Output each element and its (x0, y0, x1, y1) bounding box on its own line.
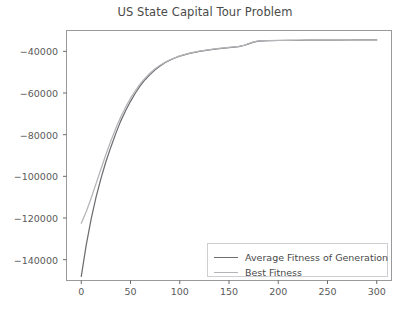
legend-color-swatch (214, 257, 238, 258)
legend-color-swatch (214, 272, 238, 273)
y-tick-label: −60000 (0, 88, 58, 99)
y-tick-label: −120000 (0, 213, 58, 224)
x-tick-label: 300 (357, 286, 397, 297)
legend-item[interactable]: Average Fitness of Generation (214, 251, 388, 264)
y-tick-label: −40000 (0, 46, 58, 57)
x-tick-label: 0 (61, 286, 101, 297)
x-tick-label: 150 (209, 286, 249, 297)
series-line (81, 40, 376, 223)
series-lines (81, 40, 376, 276)
y-tick-label: −140000 (0, 254, 58, 265)
legend-label: Best Fitness (245, 267, 302, 278)
legend-label: Average Fitness of Generation (245, 252, 388, 263)
legend-item[interactable]: Best Fitness (214, 266, 302, 279)
y-tick-label: −80000 (0, 129, 58, 140)
matplotlib-figure: US State Capital Tour Problem −40000−600… (0, 0, 410, 317)
chart-legend[interactable]: Average Fitness of GenerationBest Fitnes… (207, 243, 388, 277)
x-tick-label: 100 (160, 286, 200, 297)
x-tick-label: 200 (258, 286, 298, 297)
x-tick-label: 50 (111, 286, 151, 297)
series-line (81, 40, 376, 276)
y-tick-label: −100000 (0, 171, 58, 182)
x-tick-label: 250 (307, 286, 347, 297)
